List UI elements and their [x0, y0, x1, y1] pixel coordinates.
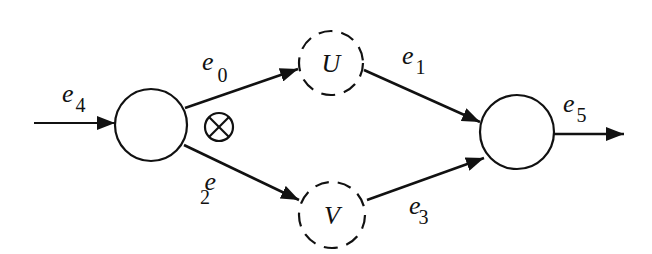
edge-label-e2: e2: [200, 167, 216, 208]
edge-e0: e0: [185, 47, 298, 108]
node-V: V: [299, 182, 365, 248]
node-U: U: [299, 31, 363, 95]
edge-label-e3: e3: [409, 191, 429, 228]
edge-label-e5: e5: [563, 89, 587, 126]
node-label-U: U: [322, 49, 343, 78]
edge-e3: e3: [367, 158, 484, 228]
edge-e4: e4: [34, 79, 115, 123]
edge-label-e0: e0: [202, 47, 228, 86]
circled-times-icon: [205, 113, 233, 141]
node-source: [115, 89, 187, 161]
network-diagram: e4 e0 e2 e1 e3 e5: [0, 0, 652, 254]
edge-label-e1: e1: [402, 41, 426, 78]
node-sink: [480, 95, 554, 169]
edge-e2: e2: [184, 145, 299, 208]
edge-label-e4: e4: [62, 79, 86, 116]
edge-e5: e5: [554, 89, 624, 134]
edge-e1: e1: [364, 41, 480, 122]
